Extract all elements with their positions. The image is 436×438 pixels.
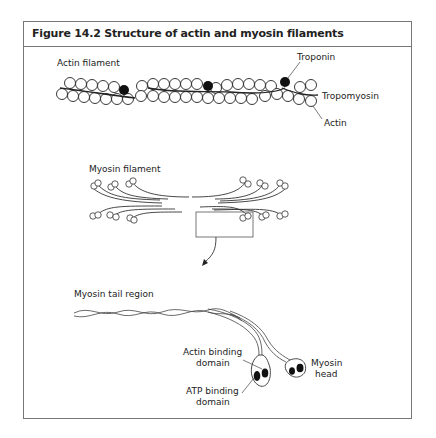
myosin-filament-label: Myosin filament bbox=[89, 164, 161, 174]
myosin-filament-panel: Myosin filament bbox=[89, 164, 288, 266]
tropomyosin-label: Tropomyosin bbox=[321, 91, 379, 101]
zoom-arrow-line bbox=[205, 237, 216, 262]
muscle-filament-diagram: Actin filament bbox=[0, 0, 436, 438]
coiled-coil-tail bbox=[74, 309, 290, 362]
myosin-head-label-line1: Myosin bbox=[311, 358, 343, 368]
myosin-tail-panel: Myosin tail region Actin binding domain … bbox=[74, 289, 343, 407]
atp-binding-label-line2: domain bbox=[196, 397, 230, 407]
myosin-tails bbox=[94, 183, 285, 217]
myosin-tail-label: Myosin tail region bbox=[74, 289, 154, 299]
actin-binding-label-line1: Actin binding bbox=[183, 347, 242, 357]
troponin-label: Troponin bbox=[296, 52, 335, 62]
myosin-head-label-line2: head bbox=[315, 369, 337, 379]
actin-filament-panel: Actin filament bbox=[57, 52, 379, 128]
actin-filament-label: Actin filament bbox=[57, 58, 120, 68]
actin-callout-lines bbox=[288, 62, 322, 119]
actin-binding-label-line2: domain bbox=[196, 358, 230, 368]
atp-binding-label-line1: ATP binding bbox=[186, 386, 239, 396]
actin-label: Actin bbox=[324, 118, 347, 128]
